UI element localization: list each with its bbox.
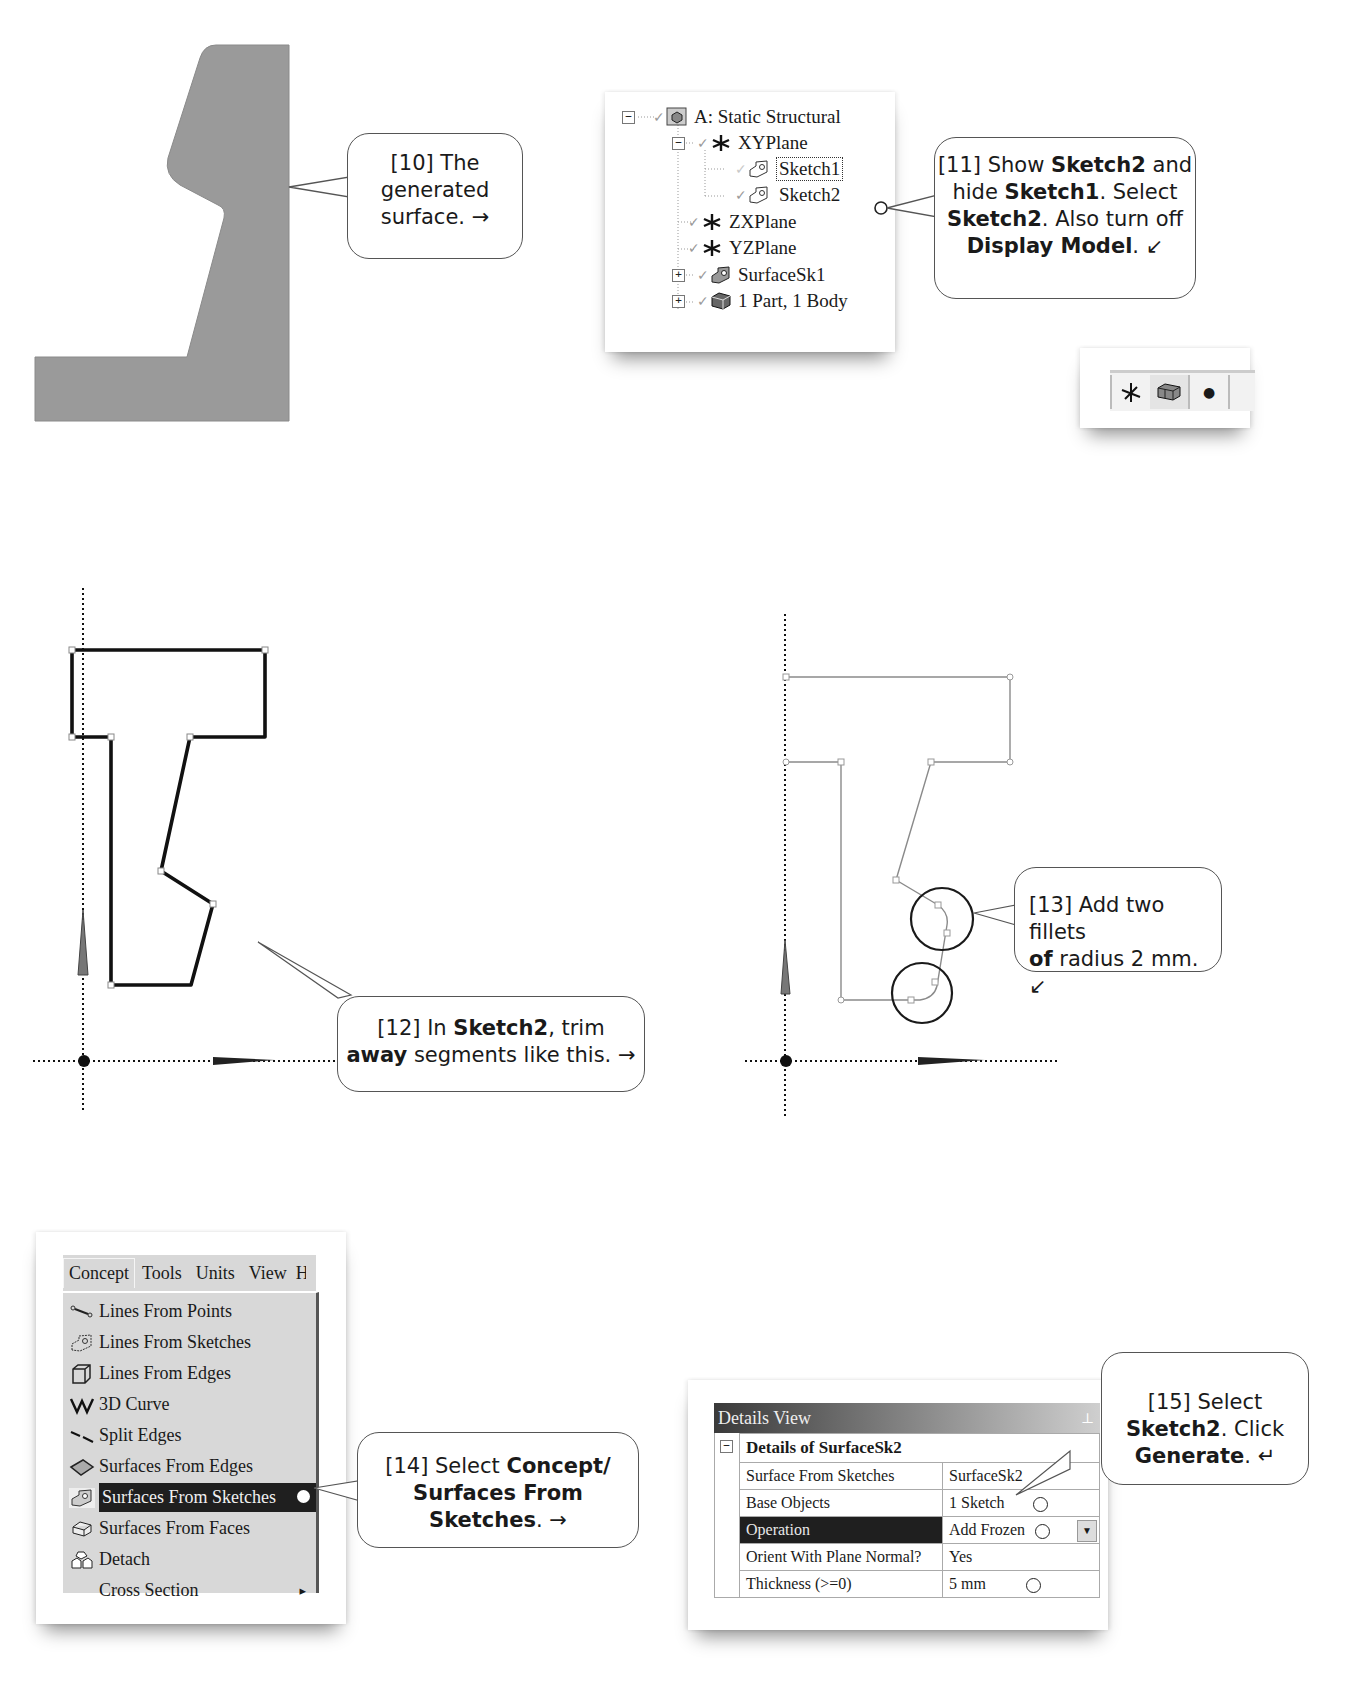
detach-icon <box>69 1550 95 1570</box>
surfaces-from-edges-icon <box>69 1457 95 1477</box>
plane-icon <box>1119 381 1143 403</box>
check-icon: ✓ <box>735 161 747 178</box>
lines-from-points-icon <box>69 1302 95 1322</box>
check-icon: ✓ <box>688 240 700 257</box>
details-row[interactable]: Orient With Plane Normal? Yes <box>740 1544 1100 1571</box>
collapse-toggle[interactable]: − <box>720 1440 733 1453</box>
generated-surface-shape <box>30 40 300 430</box>
menu-tools[interactable]: Tools <box>135 1263 189 1284</box>
check-icon: ✓ <box>735 187 747 204</box>
tree-item-yzplane[interactable]: ✓ YZPlane <box>688 235 797 261</box>
menu-item-lines-from-sketches[interactable]: Lines From Sketches <box>63 1328 316 1357</box>
callout-step-14: [14] Select Concept/ Surfaces From Sketc… <box>357 1432 639 1548</box>
tree-item-part-body[interactable]: + ✓ 1 Part, 1 Body <box>672 288 848 314</box>
callout-pointer-15 <box>1008 1435 1078 1505</box>
surfaces-from-faces-icon <box>69 1519 95 1539</box>
details-view-titlebar: Details View ⊥ <box>714 1403 1100 1433</box>
surfaces-from-sketches-icon <box>69 1488 95 1508</box>
origin-point <box>78 1055 90 1067</box>
arrow-right-icon: → <box>618 1043 636 1067</box>
menu-item-split-edges[interactable]: Split Edges <box>63 1421 316 1450</box>
sketch2-fillet-canvas <box>700 580 1060 1120</box>
callout-step-11: [11] Show Sketch2 and hide Sketch1. Sele… <box>934 137 1196 299</box>
tree-item-xyplane[interactable]: − ✓ XYPlane <box>672 130 808 156</box>
plane-icon <box>701 238 723 258</box>
menu-view[interactable]: View <box>242 1263 294 1284</box>
plane-icon <box>710 133 732 153</box>
return-arrow-icon: ↵ <box>1258 1444 1276 1468</box>
arrow-right-icon: → <box>549 1508 567 1532</box>
menu-bar: Concept Tools Units View H <box>63 1255 316 1291</box>
analysis-system-icon <box>666 107 688 127</box>
sketch-icon <box>748 185 770 205</box>
menu-item-3d-curve[interactable]: 3D Curve <box>63 1390 316 1419</box>
expand-toggle[interactable]: + <box>672 269 685 282</box>
tree-outline: − ✓ A: Static Structural − ✓ XYPlane ✓ S… <box>605 92 905 352</box>
tree-item-surfacesk1[interactable]: + ✓ SurfaceSk1 <box>672 262 826 288</box>
lines-from-sketches-icon <box>69 1333 95 1353</box>
menu-help[interactable]: H <box>294 1263 306 1284</box>
details-row-selected[interactable]: Operation Add Frozen▼ <box>740 1517 1100 1544</box>
display-toolbar: ● <box>1110 370 1255 411</box>
collapse-gutter: − <box>714 1433 739 1598</box>
menu-units[interactable]: Units <box>189 1263 242 1284</box>
tree-item-zxplane[interactable]: ✓ ZXPlane <box>688 209 797 235</box>
submenu-arrow-icon: ▸ <box>299 1583 306 1599</box>
check-icon: ✓ <box>653 109 665 126</box>
dropdown-button[interactable]: ▼ <box>1077 1520 1097 1542</box>
callout-step-10: [10] The generated surface. → <box>347 133 523 259</box>
menu-concept[interactable]: Concept <box>63 1258 135 1288</box>
tree-item-sketch2[interactable]: ✓ Sketch2 <box>735 182 843 208</box>
callout-step-13: [13] Add two fillets of radius 2 mm. ↙ <box>1014 867 1222 972</box>
fillet-highlight-circle <box>892 963 952 1023</box>
part-body-icon <box>710 291 732 311</box>
menu-item-surfaces-from-faces[interactable]: Surfaces From Faces <box>63 1514 316 1543</box>
sketch-icon <box>748 159 770 179</box>
check-icon: ✓ <box>697 293 709 310</box>
plane-icon <box>701 212 723 232</box>
origin-point <box>780 1055 792 1067</box>
callout-step-15: [15] Select Sketch2. Click Generate. ↵ <box>1101 1352 1309 1485</box>
tree-item-static-structural[interactable]: − ✓ A: Static Structural <box>622 104 841 130</box>
menu-item-surfaces-from-sketches[interactable]: Surfaces From Sketches <box>63 1483 316 1512</box>
collapse-toggle[interactable]: − <box>672 137 685 150</box>
menu-item-cross-section[interactable]: Cross Section ▸ <box>63 1576 316 1605</box>
tree-item-sketch1[interactable]: ✓ Sketch1 <box>735 156 843 182</box>
collapse-toggle[interactable]: − <box>622 111 635 124</box>
check-icon: ✓ <box>697 135 709 152</box>
lines-from-edges-icon <box>69 1364 95 1384</box>
point-icon: ● <box>1203 384 1215 400</box>
cube-model-icon <box>1156 382 1182 402</box>
arrow-right-icon: → <box>472 205 490 229</box>
concept-dropdown: Lines From Points Lines From Sketches Li… <box>63 1292 319 1593</box>
menu-item-detach[interactable]: Detach <box>63 1545 316 1574</box>
menu-item-lines-from-edges[interactable]: Lines From Edges <box>63 1359 316 1388</box>
callout-pointer-11 <box>873 185 943 225</box>
callout-step-12: [12] In Sketch2, trim away segments like… <box>337 996 645 1092</box>
details-row[interactable]: Thickness (>=0) 5 mm <box>740 1571 1100 1598</box>
split-edges-icon <box>69 1426 95 1446</box>
display-plane-button[interactable] <box>1110 375 1150 409</box>
pin-icon[interactable]: ⊥ <box>1081 1410 1094 1427</box>
menu-item-surfaces-from-edges[interactable]: Surfaces From Edges <box>63 1452 316 1481</box>
surface-sketch-icon <box>710 265 732 285</box>
menu-item-lines-from-points[interactable]: Lines From Points <box>63 1297 316 1326</box>
arrow-down-left-icon: ↙ <box>1029 974 1047 998</box>
arrow-down-left-icon: ↙ <box>1146 234 1164 258</box>
expand-toggle[interactable]: + <box>672 295 685 308</box>
3d-curve-icon <box>69 1395 95 1415</box>
display-model-button[interactable] <box>1150 375 1188 409</box>
fillet-highlight-circle <box>911 888 973 950</box>
pointer-circle <box>1026 1578 1041 1593</box>
check-icon: ✓ <box>697 267 709 284</box>
check-icon: ✓ <box>688 214 700 231</box>
display-point-button[interactable]: ● <box>1188 375 1230 409</box>
pointer-dot <box>297 1490 310 1503</box>
pointer-circle <box>1035 1524 1050 1539</box>
